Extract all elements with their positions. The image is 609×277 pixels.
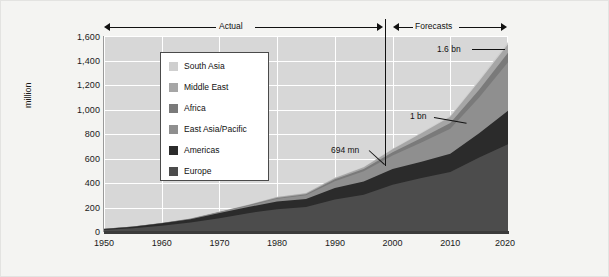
x-tick-1950: 1950: [82, 238, 126, 248]
legend-item-south-asia[interactable]: South Asia: [169, 59, 225, 73]
x-tick-2010: 2010: [428, 238, 472, 248]
legend-swatch-east-asia-pacific: [169, 125, 178, 134]
legend-label-europe: Europe: [184, 166, 211, 176]
x-axis-line: [104, 231, 509, 234]
actual-band-line-left: [110, 27, 216, 28]
y-tick-1600: 1,600: [54, 33, 100, 42]
y-axis-ticks: 1,600 1,400 1,200 1,000 800 600 400 200 …: [50, 0, 100, 277]
actual-forecast-divider-line: [385, 34, 386, 166]
chart-figure: Actual Forecasts 1,600 1,400 1,200 1,000…: [0, 0, 609, 277]
legend-label-south-asia: South Asia: [184, 61, 225, 71]
actual-band-line-right: [255, 27, 377, 28]
callout-billion-label: 1 bn: [410, 111, 427, 121]
callout-actual-end-label: 694 mn: [331, 145, 359, 155]
x-tick-1990: 1990: [313, 238, 357, 248]
y-axis-line: [103, 36, 104, 232]
legend-label-africa: Africa: [184, 103, 206, 113]
legend-item-africa[interactable]: Africa: [169, 101, 206, 115]
x-tick-1980: 1980: [255, 238, 299, 248]
x-tick-2000: 2000: [371, 238, 415, 248]
chart-legend: South Asia Middle East Africa East Asia/…: [160, 52, 269, 181]
actual-arrow-right-icon: [377, 23, 383, 31]
x-tick-1960: 1960: [140, 238, 184, 248]
y-axis-label: million: [23, 82, 33, 108]
x-tick-1970: 1970: [197, 238, 241, 248]
y-tick-200: 200: [54, 204, 100, 213]
x-tick-2020: 2020: [483, 238, 527, 248]
period-band-row: Actual Forecasts: [104, 20, 508, 34]
forecasts-arrow-right-icon: [501, 23, 507, 31]
y-tick-0: 0: [54, 228, 100, 237]
legend-swatch-south-asia: [169, 62, 178, 71]
forecasts-band-line-right: [459, 27, 501, 28]
callout-peak-label: 1.6 bn: [437, 44, 461, 54]
actual-forecast-divider-tick: [385, 19, 386, 34]
legend-item-europe[interactable]: Europe: [169, 164, 211, 178]
legend-label-americas: Americas: [184, 145, 219, 155]
legend-item-east-asia-pacific[interactable]: East Asia/Pacific: [169, 122, 247, 136]
y-tick-1000: 1,000: [54, 106, 100, 115]
y-tick-1200: 1,200: [54, 81, 100, 90]
y-tick-800: 800: [54, 130, 100, 139]
legend-swatch-europe: [169, 167, 178, 176]
forecasts-band-line-left: [399, 27, 413, 28]
y-tick-1400: 1,400: [54, 57, 100, 66]
y-tick-600: 600: [54, 155, 100, 164]
actual-band-label: Actual: [219, 20, 243, 33]
legend-swatch-middle-east: [169, 83, 178, 92]
callout-peak-leader: [472, 49, 505, 50]
y-tick-400: 400: [54, 179, 100, 188]
legend-item-americas[interactable]: Americas: [169, 143, 219, 157]
forecasts-band-label: Forecasts: [415, 20, 452, 33]
x-axis-ticks: 1950 1960 1970 1980 1990 2000 2010 2020: [104, 238, 508, 252]
legend-item-middle-east[interactable]: Middle East: [169, 80, 228, 94]
legend-label-middle-east: Middle East: [184, 82, 228, 92]
legend-swatch-americas: [169, 146, 178, 155]
legend-label-east-asia-pacific: East Asia/Pacific: [184, 124, 247, 134]
legend-swatch-africa: [169, 104, 178, 113]
